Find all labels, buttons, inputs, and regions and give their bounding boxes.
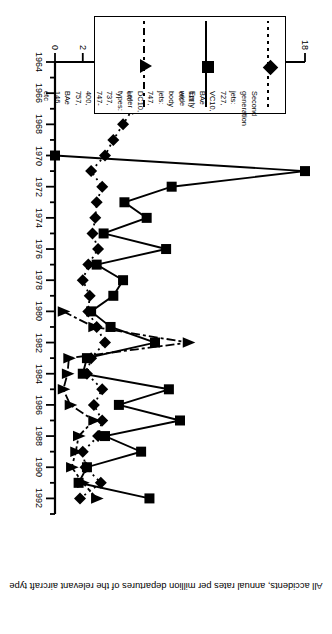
data-series-layer <box>50 56 310 504</box>
chart-legend: Second generation jets: 727, VC10, BAe 1… <box>94 16 286 114</box>
data-point-marker <box>136 447 146 457</box>
year-tick-label: 1982 <box>34 329 44 357</box>
data-point-marker <box>58 306 71 317</box>
year-tick-label: 1974 <box>34 204 44 232</box>
year-tick-label: 1986 <box>34 391 44 419</box>
data-point-marker <box>91 493 104 504</box>
data-point-marker <box>62 368 75 378</box>
value-tick-label: 0 <box>49 45 60 50</box>
legend-symbol-square <box>195 15 217 113</box>
data-point-marker <box>92 243 104 255</box>
legend-marker-triangle-icon <box>140 59 152 73</box>
data-point-marker <box>87 227 99 239</box>
year-tick-label: 1988 <box>34 422 44 450</box>
data-point-marker <box>100 431 110 441</box>
data-point-marker <box>144 493 154 503</box>
data-point-marker <box>117 118 129 130</box>
legend-symbol-diamond <box>257 15 279 113</box>
year-tick-label: 1976 <box>34 235 44 263</box>
year-tick-label: 1970 <box>34 142 44 170</box>
data-point-marker <box>175 415 185 425</box>
data-point-marker <box>78 369 88 379</box>
data-point-marker <box>91 196 103 208</box>
data-point-marker <box>108 291 118 301</box>
data-point-marker <box>114 400 124 410</box>
year-tick-label: 1978 <box>34 266 44 294</box>
data-point-marker <box>92 260 102 270</box>
legend-label-2: Later types: 737, 747-400, 757, BAe 146,… <box>37 91 135 113</box>
year-tick-label: 1990 <box>34 453 44 481</box>
data-point-marker <box>85 165 97 177</box>
data-point-marker <box>82 462 92 472</box>
data-point-marker <box>65 400 78 411</box>
data-point-marker <box>73 431 86 442</box>
data-point-marker <box>63 353 76 364</box>
data-point-marker <box>84 290 96 302</box>
year-tick-label: 1992 <box>34 484 44 512</box>
data-point-marker <box>50 151 60 161</box>
data-point-marker <box>99 228 109 238</box>
data-point-marker <box>107 134 119 146</box>
data-point-marker <box>88 415 101 426</box>
data-point-marker <box>167 182 177 192</box>
year-tick-label: 1964 <box>34 48 44 76</box>
chart-figure: All accidents, annual rates per million … <box>0 0 332 634</box>
data-point-marker <box>300 166 310 176</box>
data-point-marker <box>161 244 171 254</box>
data-point-marker <box>89 212 101 224</box>
legend-marker-diamond-icon <box>263 60 279 76</box>
year-tick-label: 1968 <box>34 110 44 138</box>
data-point-marker <box>66 462 79 473</box>
value-tick-label: 18 <box>299 40 310 50</box>
data-point-marker <box>142 213 152 223</box>
data-point-marker <box>77 274 89 286</box>
data-point-marker <box>99 337 111 349</box>
data-point-marker <box>164 384 174 394</box>
year-tick-label: 1972 <box>34 173 44 201</box>
value-tick-label: 2 <box>77 45 88 50</box>
data-point-marker <box>119 197 129 207</box>
value-axis-title: All accidents, annual rates per million … <box>4 580 328 593</box>
data-point-marker <box>183 337 196 348</box>
year-tick-label: 1980 <box>34 297 44 325</box>
year-tick-label: 1984 <box>34 360 44 388</box>
data-point-marker <box>96 383 108 395</box>
year-axis-ticks <box>46 62 55 514</box>
data-point-marker <box>88 399 100 411</box>
data-point-marker <box>118 275 128 285</box>
data-point-marker <box>86 306 96 316</box>
legend-symbol-triangle <box>133 15 155 113</box>
data-point-marker <box>96 181 108 193</box>
legend-marker-square-icon <box>202 61 214 73</box>
